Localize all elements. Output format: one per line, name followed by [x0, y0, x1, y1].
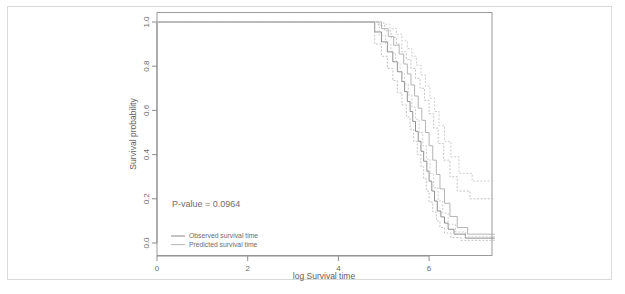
curve-predicted-upper-95-ci: [157, 22, 495, 181]
plot-box: [157, 13, 492, 256]
p-value-annotation: P-value = 0.0964: [172, 199, 240, 209]
y-tick-label: 0.6: [142, 104, 151, 116]
y-axis: 0.00.20.40.60.81.0: [142, 16, 157, 249]
y-tick-label: 0.2: [142, 193, 151, 205]
x-tick-label: 6: [427, 264, 432, 273]
x-tick-label: 0: [155, 264, 160, 273]
x-axis-title: log Survival time: [293, 271, 356, 281]
plot-border: [157, 13, 492, 256]
y-axis-title: Survival probability: [128, 98, 138, 170]
survival-plot: 0.00.20.40.60.81.0 0246 log Survival tim…: [0, 0, 625, 294]
legend-label-predicted: Predicted survival time: [189, 241, 258, 248]
x-tick-label: 2: [245, 264, 250, 273]
plot-svg: 0.00.20.40.60.81.0 0246 log Survival tim…: [0, 0, 625, 294]
legend: Observed survival timePredicted survival…: [171, 232, 258, 248]
y-tick-label: 0.4: [142, 148, 151, 160]
legend-label-observed: Observed survival time: [189, 232, 258, 239]
curve-observed-upper-95-ci: [157, 22, 495, 199]
y-tick-label: 0.0: [142, 237, 151, 249]
y-tick-label: 1.0: [142, 16, 151, 28]
y-tick-label: 0.8: [142, 60, 151, 72]
